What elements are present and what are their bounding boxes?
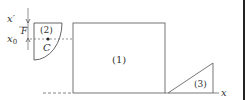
- centroid-point: [46, 37, 49, 40]
- label-region-1: (1): [112, 54, 126, 65]
- composite-area-diagram: x′ F x0 (2) C (1) (3) x: [0, 0, 247, 100]
- label-region-2: (2): [40, 25, 53, 35]
- label-force: F: [20, 26, 28, 36]
- label-centroid: C: [43, 42, 51, 53]
- label-x0: x0: [7, 33, 17, 46]
- label-region-3: (3): [194, 79, 207, 89]
- label-x-axis: x: [221, 87, 227, 98]
- label-x-prime: x′: [7, 13, 16, 24]
- right-border-bar: [243, 0, 245, 100]
